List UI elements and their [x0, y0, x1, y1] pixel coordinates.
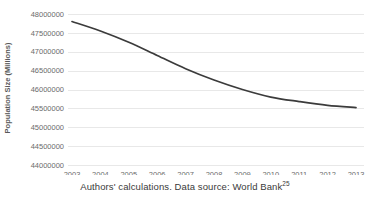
x-tick-label: 2008 — [206, 170, 223, 175]
y-tick-label: 47500000 — [31, 29, 64, 38]
figure-container: 4400000044500000450000004550000046000000… — [0, 0, 370, 203]
line-chart-svg: 4400000044500000450000004550000046000000… — [0, 0, 370, 175]
x-tick-label: 2003 — [64, 170, 81, 175]
y-tick-label: 46000000 — [31, 85, 64, 94]
x-tick-label: 2007 — [177, 170, 194, 175]
y-axis-title: Population Size (Millions) — [3, 42, 12, 133]
y-tick-label: 46500000 — [31, 66, 64, 75]
data-series-line — [72, 22, 356, 108]
y-tick-label: 44500000 — [31, 142, 64, 151]
x-tick-label: 2006 — [149, 170, 166, 175]
figure-caption: Authors' calculations. Data source: Worl… — [0, 180, 370, 192]
y-tick-label: 44000000 — [31, 161, 64, 170]
caption-reference: 25 — [282, 180, 289, 187]
caption-text: Authors' calculations. Data source: Worl… — [80, 181, 282, 192]
y-tick-label: 47000000 — [31, 47, 64, 56]
x-tick-label: 2009 — [234, 170, 251, 175]
x-tick-label: 2013 — [348, 170, 365, 175]
x-tick-label: 2004 — [92, 170, 109, 175]
x-tick-label: 2010 — [262, 170, 279, 175]
y-tick-label: 45000000 — [31, 123, 64, 132]
gridlines-group — [68, 15, 364, 166]
y-axis-tick-labels: 4400000044500000450000004550000046000000… — [31, 10, 64, 170]
x-tick-label: 2011 — [291, 170, 307, 175]
x-tick-label: 2012 — [319, 170, 336, 175]
y-tick-label: 48000000 — [31, 10, 64, 19]
x-axis-tick-labels: 2003200420052006200720082009201020112012… — [64, 170, 365, 175]
x-tick-label: 2005 — [120, 170, 137, 175]
chart-plot-area: 4400000044500000450000004550000046000000… — [0, 0, 370, 175]
y-tick-label: 45500000 — [31, 104, 64, 113]
